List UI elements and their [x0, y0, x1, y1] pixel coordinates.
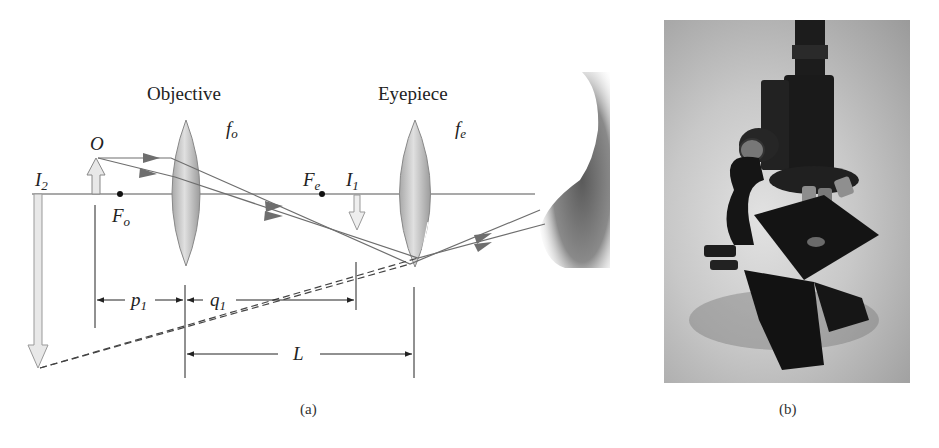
- panel-a-caption: (a): [300, 401, 317, 418]
- microscope-illustration: [664, 20, 910, 383]
- microscope-photo: [664, 20, 910, 383]
- focal-length-eyepiece-label: fe: [455, 118, 466, 141]
- focal-point-objective: [117, 191, 123, 197]
- eyepiece-lens: [400, 120, 431, 267]
- q1-label: q1: [210, 289, 226, 313]
- p1-label: p1: [129, 289, 147, 313]
- focal-point-eyepiece-label: Fe: [302, 169, 321, 193]
- objective-lens: [172, 120, 200, 266]
- object-label: O: [90, 133, 104, 154]
- objective-label: Objective: [147, 83, 221, 104]
- eyepiece-label: Eyepiece: [378, 83, 448, 104]
- object-arrow: [87, 158, 105, 194]
- intermediate-image-arrow: [349, 195, 365, 230]
- length-L-label: L: [292, 343, 304, 364]
- virtual-rays: [40, 258, 418, 368]
- final-image-label: I2: [34, 169, 48, 193]
- focal-point-objective-label: Fo: [111, 205, 131, 229]
- focal-length-objective-label: fo: [226, 118, 238, 141]
- intermediate-image-label: I1: [345, 169, 359, 193]
- panel-b-caption: (b): [779, 401, 797, 418]
- dimension-lines: [95, 205, 414, 378]
- final-image-arrow: [28, 194, 48, 368]
- observer-face: [540, 72, 610, 268]
